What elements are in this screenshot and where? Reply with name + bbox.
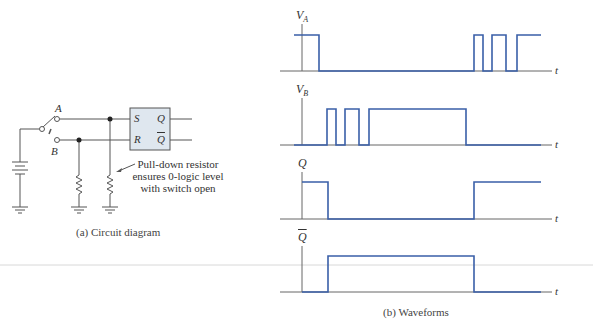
waveform-qbar [302, 256, 541, 292]
switch-pivot [40, 127, 45, 132]
contact-a-label: A [55, 102, 62, 114]
qbar-label: Q [298, 230, 307, 245]
annotation-arrow-icon [116, 168, 122, 172]
switch-contact-b [55, 138, 60, 143]
waveforms-caption: (b) Waveforms [383, 306, 449, 318]
junction-dot [77, 138, 82, 143]
switch-contact-a [55, 117, 60, 122]
waveform-q [302, 182, 541, 219]
contact-b-label: B [51, 145, 58, 157]
t-axis-label: t [555, 285, 558, 297]
waveform-va [294, 35, 541, 71]
annotation-line: Pull-down resistor [128, 158, 228, 170]
latch-s-label: S [134, 112, 140, 124]
t-axis-label: t [555, 212, 558, 224]
annotation-line: ensures 0-logic level [128, 170, 228, 182]
latch-q-label: Q [157, 112, 165, 124]
waveform-axes [280, 24, 552, 292]
circuit-caption: (a) Circuit diagram [76, 226, 160, 238]
annotation-line: with switch open [128, 182, 228, 194]
latch-qbar-label: Q [157, 133, 165, 145]
vb-label: VB [296, 82, 308, 98]
waveform-vb [294, 109, 541, 145]
q-label: Q [298, 156, 307, 171]
va-label: VA [296, 8, 308, 24]
pull-down-annotation: Pull-down resistor ensures 0-logic level… [128, 158, 228, 194]
latch-r-label: R [134, 133, 141, 145]
t-axis-label: t [555, 64, 558, 76]
t-axis-label: t [555, 138, 558, 150]
junction-dot [108, 117, 113, 122]
diagram-canvas [0, 0, 593, 323]
